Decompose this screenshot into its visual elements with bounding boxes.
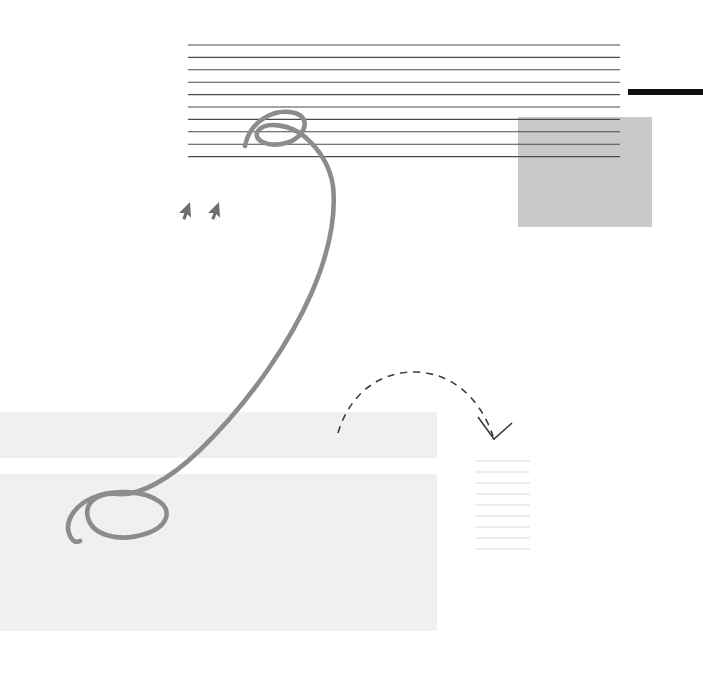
cursor-arrow-right[interactable] — [207, 202, 228, 223]
cursor-arrow-left[interactable] — [178, 202, 199, 223]
right-accent-bar — [628, 89, 703, 95]
dashed-arrow-head — [478, 417, 512, 439]
faint-content-blocks — [0, 412, 437, 631]
gray-highlight-rectangle — [518, 117, 652, 227]
annotation-canvas — [0, 0, 703, 674]
cursor-arrow-group[interactable] — [178, 202, 228, 223]
faint-content-block-lower — [0, 474, 437, 631]
bottom-right-ruled-text-block — [475, 461, 530, 549]
faint-content-block-upper — [0, 412, 437, 458]
